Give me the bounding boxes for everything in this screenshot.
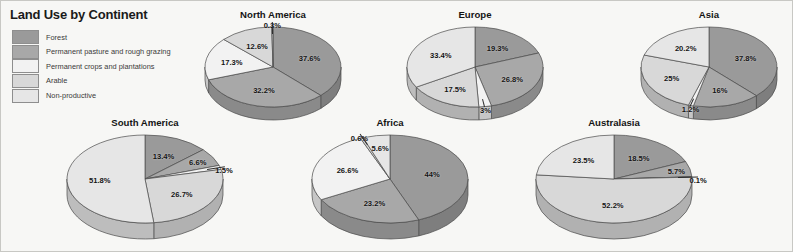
legend-swatch-icon — [12, 30, 39, 44]
pie-svg-africa — [304, 133, 476, 243]
pie-title-asia: Asia — [633, 9, 785, 20]
legend-swatch-icon — [12, 89, 39, 103]
pie-slice-side — [479, 106, 492, 120]
pie-stage-africa: 44%23.2%26.6%0.6%5.6% — [304, 133, 476, 243]
pie-slice-non-productive — [536, 135, 614, 179]
legend-item: Forest — [12, 30, 207, 45]
legend-swatch-icon — [12, 59, 39, 73]
legend-item: Permanent pasture and rough grazing — [12, 45, 207, 60]
pie-svg-europe — [399, 25, 551, 124]
pie-stage-australasia: 18.5%5.7%0.1%52.2%23.5% — [528, 133, 700, 243]
pie-stage-europe: 19.3%26.8%3%17.5%33.4% — [399, 25, 551, 124]
pie-svg-asia — [633, 25, 785, 124]
pie-title-australasia: Australasia — [528, 117, 700, 128]
pie-title-south-america: South America — [59, 117, 231, 128]
legend-item-label: Non-productive — [46, 92, 96, 99]
legend: ForestPermanent pasture and rough grazin… — [12, 30, 207, 103]
legend-item-label: Permanent crops and plantations — [46, 63, 154, 70]
pie-title-europe: Europe — [399, 9, 551, 20]
pie-title-africa: Africa — [304, 117, 476, 128]
pie-stage-north-america: 37.6%32.2%17.3%12.6%0.3% — [197, 25, 349, 124]
pie-stage-south-america: 13.4%6.6%1.5%26.7%51.8% — [59, 133, 231, 243]
pie-svg-north-america — [197, 25, 349, 124]
chart-root: Land Use by Continent ForestPermanent pa… — [0, 0, 793, 252]
legend-item-label: Permanent pasture and rough grazing — [46, 48, 171, 55]
pie-svg-south-america — [59, 133, 231, 243]
legend-item: Arable — [12, 74, 207, 89]
legend-item: Non-productive — [12, 88, 207, 103]
legend-swatch-icon — [12, 45, 39, 59]
page-title: Land Use by Continent — [10, 7, 147, 22]
pie-svg-australasia — [528, 133, 700, 243]
legend-item-label: Forest — [46, 34, 67, 41]
pie-title-north-america: North America — [197, 9, 349, 20]
legend-swatch-icon — [12, 74, 39, 88]
pie-stage-asia: 37.8%16%1.2%25%20.2% — [633, 25, 785, 124]
legend-item: Permanent crops and plantations — [12, 59, 207, 74]
legend-item-label: Arable — [46, 77, 67, 84]
